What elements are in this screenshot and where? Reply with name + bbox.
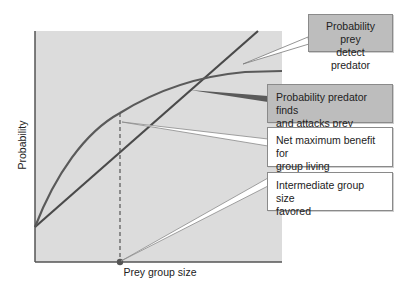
callout-text: favored bbox=[276, 205, 384, 218]
x-axis-label: Prey group size bbox=[124, 266, 197, 278]
callout-predator-attacks-prey: Probability predator finds and attacks p… bbox=[267, 84, 393, 123]
callout-text: Probability prey bbox=[317, 20, 384, 46]
predation-risk-diagram: Probability prey detect predator Probabi… bbox=[0, 0, 412, 288]
optimum-dot bbox=[117, 259, 123, 265]
callout-text: Net maximum benefit for bbox=[276, 134, 384, 160]
callout-intermediate-group-size: Intermediate group size favored bbox=[267, 172, 393, 211]
callout-text: Probability predator finds bbox=[276, 91, 384, 117]
callout-text: detect predator bbox=[317, 46, 384, 72]
callout-text: Intermediate group size bbox=[276, 179, 384, 205]
y-axis-label: Probability bbox=[16, 120, 28, 169]
callout-prey-detect-predator: Probability prey detect predator bbox=[308, 14, 393, 52]
callout-net-maximum-benefit: Net maximum benefit for group living bbox=[267, 127, 393, 167]
plot-background bbox=[35, 31, 282, 262]
